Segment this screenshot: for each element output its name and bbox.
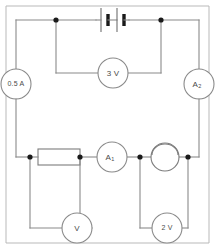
ammeter-a2-label-sub: 2 <box>198 83 201 89</box>
circuit-diagram: 3 V 0.5 A A2 <box>0 0 215 249</box>
junction-dot-lamp-left <box>137 154 142 159</box>
voltmeter-battery-label: 3 V <box>107 69 120 78</box>
ammeter-left-label: 0.5 A <box>8 80 25 87</box>
voltmeter-across-battery: 3 V <box>56 20 161 88</box>
circuit-schematic-canvas: 3 V 0.5 A A2 <box>0 0 215 249</box>
battery-two-cells <box>96 8 129 32</box>
junction-dot-resistor-right <box>77 154 82 159</box>
voltmeter-resistor-label: V <box>74 224 80 233</box>
ammeter-a1: A1 <box>97 142 127 172</box>
junction-dot-lamp-right <box>185 154 190 159</box>
voltmeter-lamp-label: 2 V <box>161 224 172 231</box>
junction-dot-top-left <box>53 17 58 22</box>
ammeter-a1-label-sub: 1 <box>111 156 114 162</box>
resistor <box>30 149 80 165</box>
resistor-body <box>38 149 80 165</box>
junction-dot-resistor-left <box>27 154 32 159</box>
lamp <box>151 143 179 171</box>
junction-dot-top-right <box>158 17 163 22</box>
junction-nodes <box>27 17 190 159</box>
voltmeter-across-resistor: V <box>30 157 92 243</box>
figure-frame <box>6 6 209 243</box>
